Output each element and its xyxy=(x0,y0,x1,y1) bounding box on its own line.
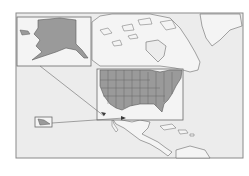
north-america-map xyxy=(0,0,249,176)
